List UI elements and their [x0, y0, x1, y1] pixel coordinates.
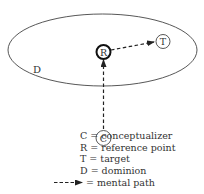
legend-item-conceptualizer: C = conceptualizer	[80, 130, 172, 141]
legend-item-dominion: D = dominion	[80, 165, 146, 176]
legend-item-target: T = target	[80, 153, 130, 164]
legend-item-reference-point: R = reference point	[80, 142, 175, 153]
legend-item-mental-path: = mental path	[86, 177, 155, 188]
